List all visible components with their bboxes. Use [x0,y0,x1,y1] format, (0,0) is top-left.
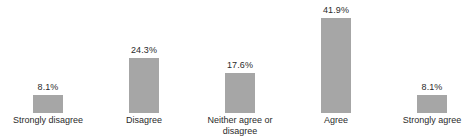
bar-agree [321,18,351,113]
bar-group-strongly-disagree: 8.1% Strongly disagree [0,0,96,139]
category-label-disagree: Disagree [96,115,192,139]
bar-disagree [129,58,159,113]
bar-value-label: 41.9% [323,5,349,16]
bar-strongly-disagree [33,95,63,113]
bar-group-neither-agree-or-disagree: 17.6% Neither agree or disagree [192,0,288,139]
bar-strongly-agree [417,95,447,113]
bar-group-disagree: 24.3% Disagree [96,0,192,139]
bar-group-agree: 41.9% Agree [288,0,384,139]
bar-neither-agree-or-disagree [225,73,255,113]
bar-value-label: 8.1% [38,82,59,93]
category-label-neither-agree-or-disagree: Neither agree or disagree [192,115,288,139]
category-label-strongly-disagree: Strongly disagree [0,115,96,139]
bar-value-label: 8.1% [422,82,443,93]
category-label-agree: Agree [288,115,384,139]
bar-value-label: 17.6% [227,60,253,71]
bar-value-label: 24.3% [131,45,157,56]
bar-group-strongly-agree: 8.1% Strongly agree [384,0,466,139]
category-label-strongly-agree: Strongly agree [384,115,466,139]
